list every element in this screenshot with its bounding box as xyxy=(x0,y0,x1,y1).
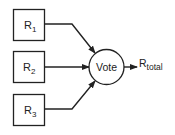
r2-label: R xyxy=(23,61,31,73)
voting-diagram: R1 R2 R3 Vote Rtotal xyxy=(0,0,175,135)
output-label-group: Rtotal xyxy=(139,57,163,72)
r3-subscript: 3 xyxy=(32,110,37,119)
r1-label: R xyxy=(24,19,32,31)
input-box-r2: R2 xyxy=(14,52,45,83)
arrow-r3-to-vote xyxy=(45,81,96,109)
vote-label: Vote xyxy=(96,61,117,73)
r3-label: R xyxy=(24,104,32,116)
svg-text:R1: R1 xyxy=(24,19,37,34)
r1-subscript: 1 xyxy=(32,25,37,34)
r2-subscript: 2 xyxy=(31,67,36,76)
arrow-r1-to-vote xyxy=(45,24,96,53)
input-box-r3: R3 xyxy=(14,95,45,126)
input-box-r1: R1 xyxy=(14,10,45,41)
output-subscript: total xyxy=(147,62,163,72)
vote-node: Vote xyxy=(89,50,124,85)
svg-text:R3: R3 xyxy=(24,104,37,119)
svg-text:R2: R2 xyxy=(23,61,36,76)
